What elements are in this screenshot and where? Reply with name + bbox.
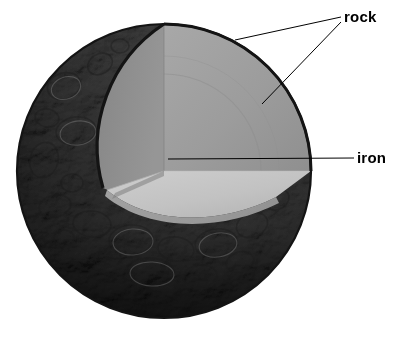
planet-interior-diagram: rock iron bbox=[0, 0, 412, 339]
callout-label-iron: iron bbox=[357, 150, 386, 165]
planet-cutaway-illustration bbox=[0, 0, 412, 339]
callout-label-rock: rock bbox=[344, 9, 377, 24]
